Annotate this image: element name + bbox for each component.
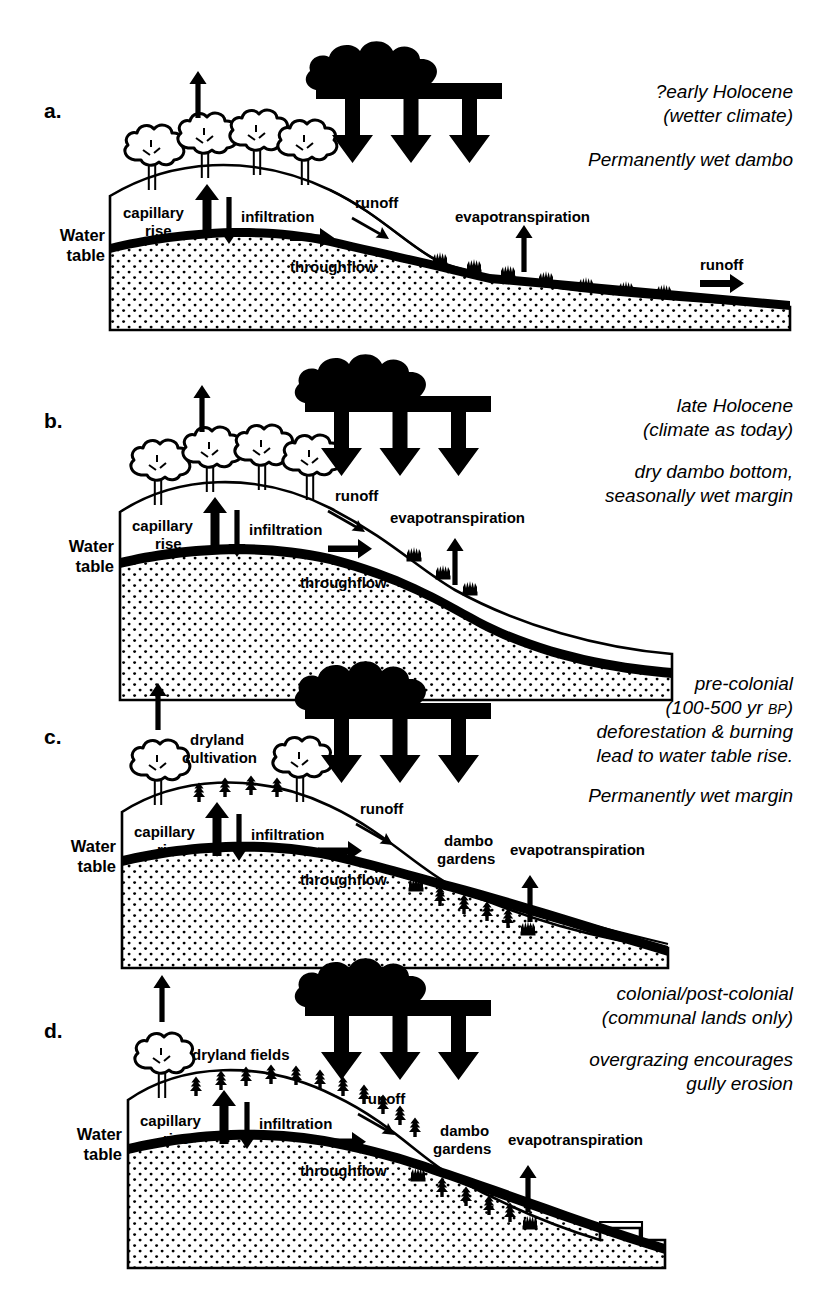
capillary-label-a-line1: capillary [123, 204, 185, 221]
panel-b-caption-line2: (climate as today) [643, 419, 793, 440]
capillary-label-c-line1: capillary [134, 823, 196, 840]
water-table-label-d-line2: table [83, 1145, 122, 1163]
evapotranspiration-label-a: evapotranspiration [455, 208, 590, 225]
water-table-label-a-line2: table [66, 246, 105, 264]
saturated-zone-a [110, 234, 790, 330]
runoff2-arrow-a [700, 274, 744, 293]
runoff-arrow-a [352, 218, 389, 239]
panel-d-caption2-line2: gully erosion [686, 1073, 793, 1094]
panel-a-letter: a. [44, 99, 62, 122]
evapotranspiration-label-b: evapotranspiration [390, 509, 525, 526]
panel-d: d. Water table dryland fields [44, 958, 794, 1268]
rain-cloud-d [295, 958, 491, 1080]
gardens-label-c-line2: gardens [437, 850, 495, 867]
water-table-label-c-line1: Water [71, 837, 117, 855]
panel-c-caption-bp-prefix: (100-500 yr [666, 697, 768, 718]
panel-c-caption-line3: deforestation & burning [597, 721, 794, 742]
panel-b-caption2-line2: seasonally wet margin [605, 485, 793, 506]
panel-c-caption-bp-suffix: ) [785, 697, 793, 718]
evapotranspiration-arrow-a [515, 225, 532, 272]
water-table-label-c-line2: table [77, 857, 116, 875]
panel-b: b. Water table capillary rise infiltrati… [44, 354, 793, 700]
runoff-label-a: runoff [355, 194, 399, 211]
panel-d-letter: d. [44, 1019, 63, 1042]
woodland-evap-arrow-a [189, 71, 206, 118]
panel-c-caption-line2: (100-500 yr BP) [666, 697, 793, 718]
dryland-label-c-line1: dryland [190, 731, 244, 748]
gardens-label-d-line2: gardens [433, 1140, 491, 1157]
water-table-label-b-line2: table [75, 557, 114, 575]
capillary-label-c-line2: rise [157, 841, 184, 858]
water-table-label-d-line1: Water [77, 1125, 123, 1143]
runoff-arrow-c [356, 824, 393, 845]
panel-b-letter: b. [44, 409, 63, 432]
runoff-arrow-d [358, 1114, 395, 1135]
panel-d-caption-line2: (communal lands only) [602, 1007, 793, 1028]
panel-c-caption-line1: pre-colonial [694, 673, 794, 694]
capillary-label-d-line2: rise [163, 1130, 190, 1147]
infiltration-label-b: infiltration [249, 521, 322, 538]
dryland-fields-label-d: dryland fields [192, 1046, 290, 1063]
panel-a: a. Water table capillary rise infiltrati… [44, 41, 793, 330]
infiltration-label-c: infiltration [251, 826, 324, 843]
dryland-label-c-line2: cultivation [182, 749, 257, 766]
throughflow-label-a: throughflow [290, 258, 377, 275]
tree-group-a [125, 110, 337, 190]
panel-c-caption-bp: BP [768, 701, 787, 717]
panel-b-caption2-line1: dry dambo bottom, [635, 461, 793, 482]
panel-a-caption-line2: (wetter climate) [663, 105, 793, 126]
runoff-label-b: runoff [335, 487, 379, 504]
capillary-label-a-line2: rise [145, 222, 172, 239]
dambo-evolution-figure: a. Water table capillary rise infiltrati… [0, 0, 814, 1308]
infiltration-label-d: infiltration [259, 1115, 332, 1132]
panel-c-caption-line4: lead to water table rise. [597, 745, 793, 766]
diagram-canvas: a. Water table capillary rise infiltrati… [0, 0, 814, 1308]
panel-d-caption-line1: colonial/post-colonial [617, 983, 794, 1004]
gardens-label-c-line1: dambo [444, 832, 493, 849]
runoff-label-c: runoff [360, 800, 404, 817]
panel-b-caption-line1: late Holocene [677, 395, 793, 416]
capillary-rise-arrow-b [203, 497, 227, 551]
infiltration-label-a: infiltration [241, 208, 314, 225]
panel-a-caption2-line1: Permanently wet dambo [588, 149, 793, 170]
panel-c: c. Water table dryland cultivation capil… [44, 661, 794, 968]
tree-group-d [135, 1033, 194, 1098]
gardens-label-d-line1: dambo [440, 1122, 489, 1139]
dryland-crops-c [193, 776, 283, 803]
woodland-evap-arrow-d [153, 975, 170, 1022]
capillary-label-d-line1: capillary [140, 1112, 202, 1129]
runoff-arrow-b [328, 511, 365, 532]
capillary-label-b-line2: rise [155, 535, 182, 552]
panel-a-caption-line1: ?early Holocene [656, 81, 793, 102]
panel-d-caption2-line1: overgrazing encourages [589, 1049, 793, 1070]
throughflow-label-c: throughflow [300, 871, 387, 888]
water-table-label-b-line1: Water [69, 537, 115, 555]
throughflow-label-d: throughflow [300, 1162, 387, 1179]
tree-group-b [131, 425, 342, 505]
panel-c-caption2-line1: Permanently wet margin [588, 785, 793, 806]
panel-c-letter: c. [44, 725, 62, 748]
water-table-label-a-line1: Water [60, 226, 106, 244]
evapotranspiration-label-d: evapotranspiration [508, 1131, 643, 1148]
capillary-label-b-line1: capillary [132, 517, 194, 534]
woodland-evap-arrow-b [193, 385, 210, 432]
runoff-label-d: runoff [362, 1090, 406, 1107]
evapotranspiration-label-c: evapotranspiration [510, 841, 645, 858]
throughflow-label-b: throughflow [300, 574, 387, 591]
runoff2-label-a: runoff [700, 256, 744, 273]
